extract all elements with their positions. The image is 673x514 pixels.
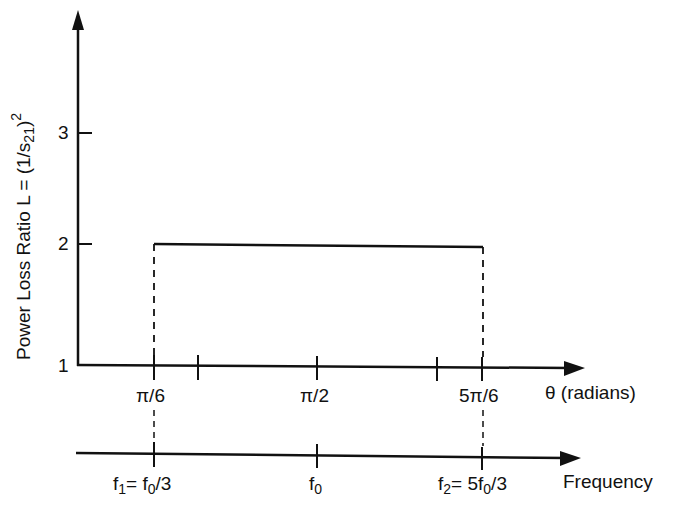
theta-axis — [77, 365, 570, 368]
f1-tail: /3 — [156, 473, 172, 494]
y-axis-label: Power Loss Ratio L = (1/s21)2 — [8, 113, 37, 360]
loss-curve — [154, 244, 483, 247]
f0-sub: 0 — [314, 481, 322, 497]
chart-canvas — [0, 0, 673, 514]
ftick-label-f0: f0 — [309, 474, 322, 496]
f2-tail: /3 — [491, 473, 507, 494]
ftick-label-f1: f1= f0/3 — [113, 474, 171, 496]
f1-sub2: 0 — [148, 481, 156, 497]
y-axis-label-sub: 21 — [21, 127, 37, 143]
ytick-label-1: 1 — [58, 356, 69, 375]
theta-axis-label: θ (radians) — [545, 383, 636, 402]
xtick-label-pi2: π/2 — [300, 386, 329, 405]
y-axis-label-close: ) — [13, 121, 34, 127]
frequency-axis-label: Frequency — [563, 472, 653, 491]
f1-sub: 1 — [118, 481, 126, 497]
ftick-label-f2: f2= 5f0/3 — [438, 474, 507, 496]
ytick-label-2: 2 — [58, 234, 69, 253]
y-axis-arrow-icon — [72, 10, 84, 30]
ytick-label-3: 3 — [58, 123, 69, 142]
frequency-axis-arrow-icon — [560, 451, 581, 466]
xtick-label-5pi6: 5π/6 — [459, 386, 499, 405]
frequency-axis — [76, 453, 566, 458]
xtick-label-pi6: π/6 — [136, 386, 165, 405]
y-axis-label-main: Power Loss Ratio L = (1/s — [13, 143, 34, 360]
f2-rest: = 5f — [451, 473, 483, 494]
f1-rest: = f — [126, 473, 148, 494]
theta-axis-arrow-icon — [564, 361, 585, 376]
f2-sub2: 0 — [483, 481, 491, 497]
f2-sub: 2 — [443, 481, 451, 497]
y-axis-label-sup: 2 — [8, 113, 24, 121]
